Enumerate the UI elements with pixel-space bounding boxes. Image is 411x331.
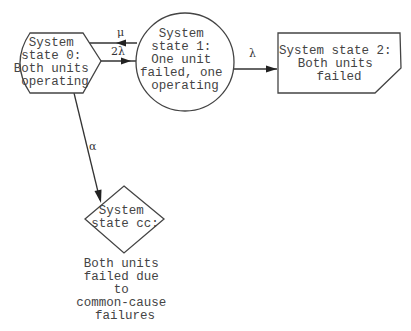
- edge-2lambda: 2λ: [99, 45, 137, 65]
- arrowhead-down-icon: [95, 190, 102, 204]
- state-0-line-3: Both units: [14, 62, 89, 76]
- state-1-line-2: state 1:: [151, 40, 211, 54]
- state-2-line-2: Both units: [298, 57, 373, 71]
- state-1-line-3: One unit: [151, 53, 211, 67]
- edge-lambda: λ: [234, 47, 277, 73]
- arrowhead-right-icon: [121, 58, 131, 65]
- arrowhead-right-icon: [266, 66, 277, 73]
- edge-mu: μ: [87, 26, 137, 47]
- svg-text:System state cc:: System state cc:: [91, 204, 159, 231]
- node-state-2: System state 2: Both units failed: [278, 33, 401, 93]
- state-2-line-3: failed: [316, 70, 361, 84]
- node-state-0: System state 0: Both units operating: [14, 33, 101, 93]
- edge-alpha: α: [74, 93, 102, 203]
- edge-label-2lambda: 2λ: [111, 45, 125, 58]
- state-cc-line-1: System: [99, 204, 144, 218]
- state-2-line-1: System state 2:: [279, 44, 392, 58]
- state-1-line-4: failed, one: [140, 66, 223, 80]
- state-0-line-1: System: [29, 36, 74, 50]
- edge-label-mu: μ: [117, 26, 124, 39]
- state-cc-caption: Both units failed due to common-cause fa…: [76, 257, 174, 323]
- state-1-line-5: operating: [151, 79, 219, 93]
- state-1-line-1: System: [159, 27, 204, 41]
- node-state-cc: System state cc: Both units failed due t…: [76, 186, 174, 323]
- diagram-canvas: μ 2λ λ α System state 0: Both units oper…: [0, 0, 411, 331]
- node-state-1: System state 1: One unit failed, one ope…: [136, 13, 234, 111]
- edge-label-alpha: α: [89, 140, 97, 153]
- edge-label-lambda: λ: [249, 47, 256, 60]
- state-cc-line-2: state cc:: [91, 217, 159, 231]
- state-0-line-2: state 0:: [21, 49, 81, 63]
- state-0-line-4: operating: [21, 75, 89, 89]
